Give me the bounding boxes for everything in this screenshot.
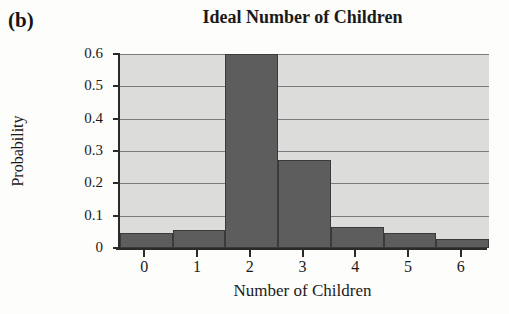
gridline [120, 86, 489, 87]
gridline [120, 119, 489, 120]
x-axis-tick [407, 250, 409, 257]
x-axis-tick-label: 0 [140, 258, 148, 276]
bar [278, 160, 331, 248]
chart-title: Ideal Number of Children [118, 7, 487, 28]
bar [436, 239, 489, 248]
y-axis-tick: 0.3 [113, 150, 120, 152]
figure-container: (b) Ideal Number of Children Probability… [0, 0, 509, 314]
bar [120, 233, 173, 248]
y-axis-tick: 0.6 [113, 53, 120, 55]
y-axis-tick-label: 0.3 [84, 142, 103, 159]
y-axis-tick-label: 0.6 [84, 45, 103, 62]
y-axis-tick: 0.1 [113, 215, 120, 217]
x-axis-tick-label: 1 [193, 258, 201, 276]
bar [173, 230, 226, 248]
y-axis-tick: 0.5 [113, 85, 120, 87]
gridline [120, 54, 489, 55]
x-axis-tick [354, 250, 356, 257]
x-axis-tick-label: 6 [457, 258, 465, 276]
y-axis-tick-label: 0.4 [84, 109, 103, 126]
x-axis-tick-label: 3 [299, 258, 307, 276]
y-axis-tick: 0.4 [113, 118, 120, 120]
bar [331, 227, 384, 248]
x-axis-tick-label: 4 [351, 258, 359, 276]
y-axis-title: Probability [9, 115, 27, 186]
bar [225, 54, 278, 248]
x-axis-tick [143, 250, 145, 257]
bar [384, 233, 437, 248]
y-axis-tick-label: 0.5 [84, 77, 103, 94]
x-axis-tick [196, 250, 198, 257]
panel-label: (b) [8, 8, 34, 33]
x-axis-tick-label: 5 [404, 258, 412, 276]
y-axis-tick: 0.2 [113, 182, 120, 184]
plot-area: 00.10.20.30.40.50.6 [118, 54, 489, 248]
x-axis-title: Number of Children [118, 281, 487, 301]
y-axis-tick-label: 0.1 [84, 206, 103, 223]
x-axis-tick [249, 250, 251, 257]
x-axis-tick-label: 2 [246, 258, 254, 276]
x-axis-tick [460, 250, 462, 257]
y-axis-tick-label: 0.2 [84, 174, 103, 191]
x-axis-tick [302, 250, 304, 257]
y-axis-tick-label: 0 [96, 239, 104, 256]
gridline [120, 151, 489, 152]
